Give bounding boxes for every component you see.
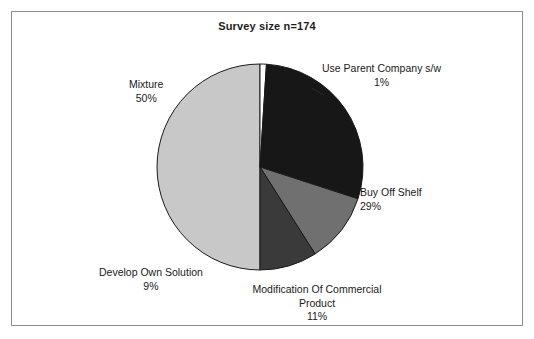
pie-label-buy-off-shelf: Buy Off Shelf 29% — [360, 186, 422, 213]
pie-label-modification-of-commercial-product: Modification Of Commercial Product 11% — [237, 283, 397, 324]
pie-label-use-parent-company: Use Parent Company s/w 1% — [322, 62, 441, 89]
pie-label-modification-value: 11% — [237, 310, 397, 324]
pie-label-use-parent-company-value: 1% — [322, 76, 441, 90]
pie-label-develop-own-solution-value: 9% — [99, 280, 203, 294]
pie-label-modification-line-2: Product — [237, 297, 397, 311]
pie-label-develop-own-solution-text: Develop Own Solution — [99, 266, 203, 278]
pie-slice-mixture[interactable] — [157, 64, 260, 270]
pie-label-modification-line-1: Modification Of Commercial — [253, 283, 382, 295]
pie-label-develop-own-solution: Develop Own Solution 9% — [99, 266, 203, 293]
pie-label-mixture-text: Mixture — [129, 78, 163, 90]
pie-label-mixture: Mixture 50% — [129, 78, 163, 105]
pie-label-use-parent-company-text: Use Parent Company s/w — [322, 62, 441, 74]
pie-chart-figure: Survey size n=174 Use Parent Company s/w… — [0, 0, 534, 339]
pie-label-buy-off-shelf-value: 29% — [360, 200, 422, 214]
chart-title: Survey size n=174 — [0, 20, 534, 32]
pie-label-buy-off-shelf-text: Buy Off Shelf — [360, 186, 422, 198]
pie-chart-graphic — [150, 57, 370, 277]
pie-label-mixture-value: 50% — [129, 92, 163, 106]
